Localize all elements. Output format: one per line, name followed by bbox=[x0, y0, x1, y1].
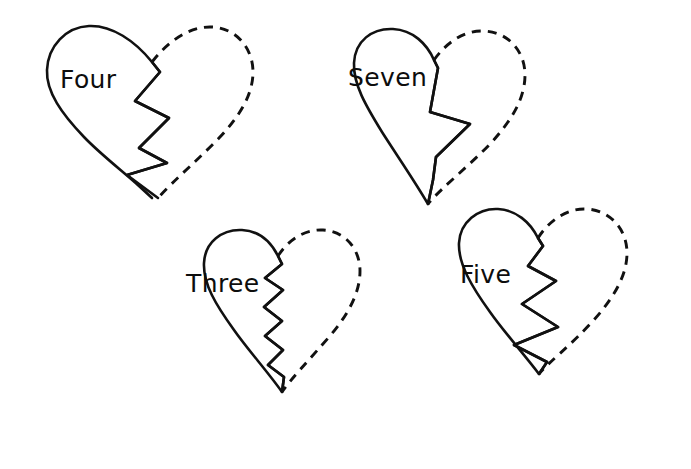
heart-crack-four bbox=[127, 62, 169, 198]
heart-dashed-half-five bbox=[538, 209, 627, 374]
heart-label-seven: Seven bbox=[348, 63, 427, 92]
heart-label-five: Five bbox=[460, 260, 511, 289]
heart-group-four: Four bbox=[47, 26, 253, 198]
heart-crack-five bbox=[514, 238, 558, 374]
heart-solid-half-five bbox=[459, 209, 558, 374]
heart-dashed-half-seven bbox=[428, 31, 525, 204]
broken-hearts-illustration: Four Seven Three Five bbox=[0, 0, 691, 469]
heart-group-three: Three bbox=[185, 230, 360, 392]
heart-group-seven: Seven bbox=[348, 29, 525, 204]
heart-solid-half-four bbox=[47, 26, 169, 198]
heart-dashed-half-three bbox=[278, 230, 360, 392]
heart-dashed-half-four bbox=[152, 27, 253, 198]
heart-group-five: Five bbox=[459, 209, 627, 374]
heart-label-three: Three bbox=[185, 269, 260, 298]
worksheet-canvas: Four Seven Three Five bbox=[0, 0, 691, 469]
heart-label-four: Four bbox=[60, 65, 117, 94]
